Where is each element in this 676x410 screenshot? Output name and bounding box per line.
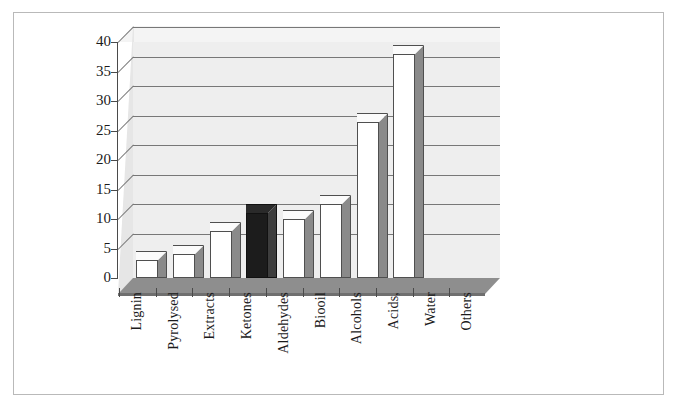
bar-chart-3d: 0510152025303540 LigninPyrolysedExtracts… bbox=[0, 0, 676, 410]
gridline bbox=[133, 204, 500, 205]
bar bbox=[173, 245, 204, 278]
value-axis-label: 35 bbox=[73, 64, 111, 79]
category-label: Pyrolysed bbox=[166, 292, 182, 350]
plot-back-wall bbox=[133, 42, 500, 278]
chart-page: 0510152025303540 LigninPyrolysedExtracts… bbox=[0, 0, 676, 410]
value-axis-labels: 0510152025303540 bbox=[62, 0, 111, 410]
bar-side-face bbox=[305, 210, 314, 278]
bar bbox=[283, 210, 314, 278]
category-label: Acids, bbox=[386, 292, 402, 329]
value-axis-tick bbox=[111, 190, 118, 191]
bar-side-face bbox=[379, 113, 388, 278]
value-axis-label: 40 bbox=[73, 34, 111, 49]
category-label: Water bbox=[423, 292, 439, 326]
bar-front-face bbox=[210, 231, 232, 278]
bar bbox=[357, 113, 388, 278]
value-axis-tick bbox=[111, 42, 118, 43]
bar bbox=[136, 251, 167, 278]
value-axis-label: 5 bbox=[73, 241, 111, 256]
value-axis-tick bbox=[111, 278, 118, 279]
category-label: Ketones bbox=[239, 292, 255, 339]
value-axis-label: 30 bbox=[73, 93, 111, 108]
category-label: Others bbox=[459, 292, 475, 331]
category-label: Aldehydes bbox=[276, 292, 292, 354]
category-axis-tick bbox=[119, 288, 120, 297]
value-axis-tick bbox=[111, 219, 118, 220]
category-axis-tick bbox=[192, 288, 193, 297]
category-axis-tick bbox=[413, 288, 414, 297]
value-axis-label: 10 bbox=[73, 211, 111, 226]
bar-front-face bbox=[393, 54, 415, 278]
category-label: Extracts bbox=[202, 292, 218, 339]
category-label: Lignin bbox=[129, 292, 145, 331]
gridline bbox=[133, 175, 500, 176]
category-axis-tick bbox=[376, 288, 377, 297]
category-axis-tick bbox=[266, 288, 267, 297]
gridline bbox=[133, 234, 500, 235]
category-axis-tick bbox=[339, 288, 340, 297]
bar bbox=[210, 222, 241, 278]
bar bbox=[393, 45, 424, 278]
bar-front-face bbox=[246, 213, 268, 278]
bar-side-face bbox=[415, 45, 424, 278]
bar-side-face bbox=[342, 195, 351, 278]
category-axis-tick bbox=[303, 288, 304, 297]
gridline bbox=[133, 27, 500, 28]
value-axis-tick bbox=[111, 101, 118, 102]
bar-side-face bbox=[268, 204, 277, 278]
plot-left-wall bbox=[118, 26, 134, 294]
bar-front-face bbox=[136, 260, 158, 278]
gridline bbox=[133, 86, 500, 87]
category-axis-tick bbox=[449, 288, 450, 297]
bar-front-face bbox=[283, 219, 305, 278]
category-axis-tick bbox=[229, 288, 230, 297]
gridline bbox=[133, 145, 500, 146]
bar bbox=[320, 195, 351, 278]
bar-front-face bbox=[357, 122, 379, 278]
value-axis-label: 25 bbox=[73, 123, 111, 138]
value-axis-label: 20 bbox=[73, 152, 111, 167]
value-axis-tick bbox=[111, 249, 118, 250]
value-axis-tick bbox=[111, 131, 118, 132]
plot-top-face bbox=[118, 26, 500, 43]
bar-front-face bbox=[173, 254, 195, 278]
value-axis-tick bbox=[111, 72, 118, 73]
category-axis-tick bbox=[156, 288, 157, 297]
bar bbox=[246, 204, 277, 278]
gridline bbox=[133, 116, 500, 117]
value-axis-label: 0 bbox=[73, 270, 111, 285]
value-axis-label: 15 bbox=[73, 182, 111, 197]
gridline bbox=[133, 57, 500, 58]
bar-side-face bbox=[232, 222, 241, 278]
category-label: Biooil bbox=[313, 292, 329, 328]
value-axis-tick bbox=[111, 160, 118, 161]
category-label: Alcohols bbox=[349, 292, 365, 344]
bar-front-face bbox=[320, 204, 342, 278]
